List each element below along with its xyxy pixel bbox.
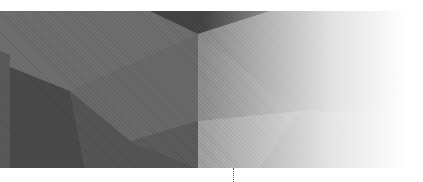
white-fade-overlay [0, 11, 423, 168]
geometric-banner-image [0, 11, 423, 168]
dotted-divider [233, 168, 234, 182]
